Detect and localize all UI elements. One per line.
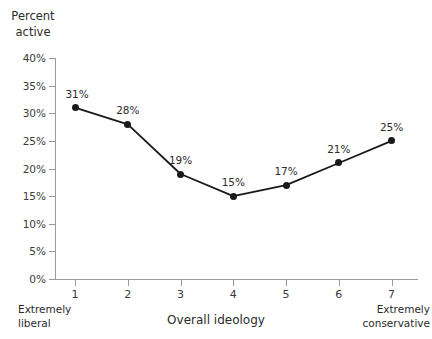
y-tick-label: 10% (4, 218, 46, 230)
y-tick-label: 35% (4, 80, 46, 92)
x-tick-mark (128, 280, 129, 286)
x-tick-label: 1 (55, 288, 95, 301)
x-tick-mark (286, 280, 287, 286)
line-chart: Percent active 0%5%10%15%20%25%30%35%40%… (0, 0, 432, 339)
y-tick-label: 5% (4, 245, 46, 257)
y-tick-label: 40% (4, 52, 46, 64)
x-tick-mark (181, 280, 182, 286)
y-tick-label: 30% (4, 107, 46, 119)
data-point-label: 19% (157, 154, 205, 166)
data-point-label: 15% (209, 176, 257, 188)
y-tick-mark (49, 196, 55, 197)
data-point-marker (230, 193, 237, 200)
x-tick-label: 6 (319, 288, 359, 301)
x-axis-end-label-right: Extremely conservative (318, 302, 430, 330)
y-tick-mark (49, 224, 55, 225)
y-tick-mark (49, 169, 55, 170)
data-point-label: 31% (53, 88, 101, 100)
data-point-label: 25% (368, 121, 416, 133)
y-tick-mark (49, 86, 55, 87)
y-tick-mark (49, 251, 55, 252)
x-tick-label: 7 (372, 288, 412, 301)
y-tick-mark (49, 58, 55, 59)
data-point-label: 21% (315, 143, 363, 155)
x-tick-mark (392, 280, 393, 286)
data-point-marker (388, 137, 395, 144)
y-tick-mark (49, 141, 55, 142)
x-tick-label: 2 (108, 288, 148, 301)
x-tick-mark (339, 280, 340, 286)
y-tick-mark (49, 113, 55, 114)
y-tick-mark (49, 279, 55, 280)
y-tick-label: 0% (4, 273, 46, 285)
x-axis-title: Overall ideology (116, 313, 316, 327)
x-tick-label: 3 (161, 288, 201, 301)
x-tick-label: 4 (213, 288, 253, 301)
x-tick-label: 5 (266, 288, 306, 301)
x-tick-mark (75, 280, 76, 286)
y-tick-label: 15% (4, 190, 46, 202)
y-axis-title: Percent active (2, 8, 64, 40)
y-tick-label: 20% (4, 163, 46, 175)
data-point-marker (335, 159, 342, 166)
x-axis-end-label-left: Extremely liberal (18, 302, 128, 330)
data-point-label: 28% (104, 104, 152, 116)
x-axis-line (55, 279, 418, 280)
data-point-marker (72, 104, 79, 111)
data-point-marker (177, 171, 184, 178)
data-point-marker (283, 182, 290, 189)
data-point-marker (124, 121, 131, 128)
y-tick-label: 25% (4, 135, 46, 147)
x-tick-mark (233, 280, 234, 286)
data-point-label: 17% (262, 165, 310, 177)
